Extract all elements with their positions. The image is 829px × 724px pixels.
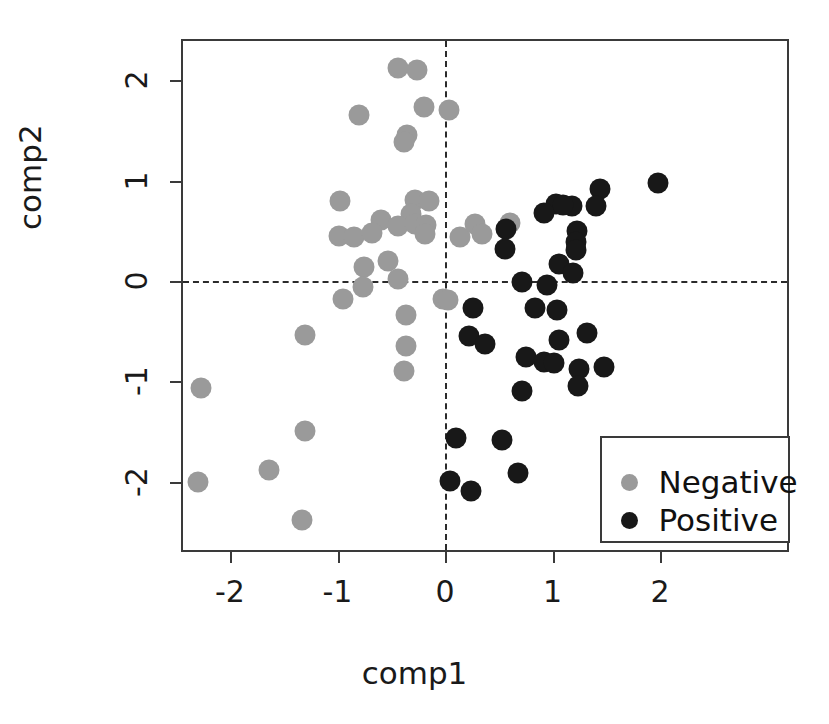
data-point-positive (576, 323, 597, 344)
data-point-positive (525, 298, 546, 319)
legend-label-negative: Negative (659, 467, 798, 498)
y-tick (170, 181, 181, 183)
y-axis-title: comp2 (12, 124, 48, 230)
y-tick (170, 381, 181, 383)
data-point-negative (439, 100, 460, 121)
data-point-positive (543, 353, 564, 374)
data-point-positive (533, 202, 554, 223)
data-point-positive (568, 376, 589, 397)
legend-swatch-negative (621, 474, 638, 491)
data-point-positive (460, 480, 481, 501)
x-tick-label: 2 (650, 574, 669, 609)
data-point-negative (387, 268, 408, 289)
y-tick (170, 482, 181, 484)
data-point-positive (496, 218, 517, 239)
legend-item-positive: Positive (621, 505, 779, 536)
y-tick (170, 80, 181, 82)
data-point-negative (295, 421, 316, 442)
chart-legend: Negative Positive (600, 436, 790, 543)
data-point-negative (329, 190, 350, 211)
data-point-positive (594, 357, 615, 378)
data-point-negative (349, 104, 370, 125)
data-point-positive (495, 238, 516, 259)
data-point-negative (353, 277, 374, 298)
data-point-negative (414, 223, 435, 244)
x-tick-label: 0 (435, 574, 454, 609)
data-point-negative (258, 459, 279, 480)
data-point-negative (438, 290, 459, 311)
data-point-positive (585, 195, 606, 216)
y-tick-label: 2 (119, 71, 154, 90)
data-point-positive (491, 430, 512, 451)
data-point-negative (394, 131, 415, 152)
y-tick-label: 1 (119, 171, 154, 190)
data-point-positive (440, 470, 461, 491)
x-tick (553, 552, 555, 563)
data-point-negative (292, 509, 313, 530)
data-point-positive (474, 334, 495, 355)
data-point-negative (361, 222, 382, 243)
data-point-negative (394, 361, 415, 382)
y-tick-label: -1 (119, 366, 154, 396)
y-tick (170, 281, 181, 283)
data-point-positive (553, 194, 574, 215)
data-point-positive (566, 239, 587, 260)
x-tick-label: -1 (323, 574, 353, 609)
data-point-negative (387, 58, 408, 79)
legend-item-negative: Negative (621, 467, 798, 498)
x-tick (445, 552, 447, 563)
legend-label-positive: Positive (659, 505, 779, 536)
legend-swatch-positive (621, 512, 638, 529)
data-point-negative (396, 336, 417, 357)
data-point-negative (354, 256, 375, 277)
x-tick-label: 1 (543, 574, 562, 609)
x-axis-title: comp1 (0, 655, 829, 691)
reference-line-horizontal (183, 281, 787, 283)
data-point-negative (332, 289, 353, 310)
data-point-positive (548, 330, 569, 351)
data-point-negative (396, 305, 417, 326)
data-point-positive (562, 262, 583, 283)
x-tick (230, 552, 232, 563)
data-point-positive (508, 462, 529, 483)
data-point-negative (413, 97, 434, 118)
data-point-positive (462, 298, 483, 319)
data-point-positive (445, 428, 466, 449)
data-point-positive (537, 275, 558, 296)
data-point-negative (295, 325, 316, 346)
data-point-positive (647, 172, 668, 193)
data-point-positive (512, 381, 533, 402)
data-point-negative (407, 60, 428, 81)
x-tick (660, 552, 662, 563)
x-tick-label: -2 (215, 574, 245, 609)
data-point-negative (471, 223, 492, 244)
data-point-negative (418, 190, 439, 211)
data-point-negative (190, 378, 211, 399)
data-point-positive (546, 300, 567, 321)
data-point-positive (512, 272, 533, 293)
scatter-plot-figure: -2-1012-2-1012 Negative Positive comp1 c… (0, 0, 829, 724)
data-point-negative (187, 471, 208, 492)
y-tick-label: 0 (119, 271, 154, 290)
x-tick (338, 552, 340, 563)
y-tick-label: -2 (119, 467, 154, 497)
